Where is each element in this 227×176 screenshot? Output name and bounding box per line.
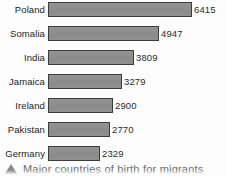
- category-label: India: [0, 50, 45, 65]
- caption-text: Major countries of birth for migrants: [23, 163, 203, 176]
- value-label: 2900: [115, 98, 137, 113]
- value-label: 4947: [161, 26, 183, 41]
- bar: [48, 98, 113, 113]
- bar-container: [48, 74, 122, 89]
- category-label: Ireland: [0, 98, 45, 113]
- bar: [48, 122, 110, 137]
- figure-caption: Major countries of birth for migrants: [0, 163, 227, 176]
- value-label: 2329: [102, 146, 124, 161]
- bar-container: [48, 98, 113, 113]
- bar: [48, 50, 134, 65]
- table-row: Pakistan 2770: [0, 122, 227, 146]
- table-row: Jamaica 3279: [0, 74, 227, 98]
- bar: [48, 146, 100, 161]
- bar-container: [48, 122, 110, 137]
- value-label: 2770: [112, 122, 134, 137]
- bar-chart-screenshot: Poland 6415 Somalia 4947 India 3809 Jama…: [0, 0, 227, 176]
- value-label: 6415: [194, 2, 216, 17]
- bar-container: [48, 146, 100, 161]
- bar-container: [48, 26, 159, 41]
- category-label: Poland: [0, 2, 45, 17]
- bar: [48, 74, 122, 89]
- table-row: India 3809: [0, 50, 227, 74]
- value-label: 3809: [136, 50, 158, 65]
- table-row: Somalia 4947: [0, 26, 227, 50]
- triangle-marker-icon: [4, 164, 18, 175]
- table-row: Poland 6415: [0, 2, 227, 26]
- category-label: Germany: [0, 146, 45, 161]
- category-label: Pakistan: [0, 122, 45, 137]
- category-label: Jamaica: [0, 74, 45, 89]
- bar-container: [48, 2, 192, 17]
- category-label: Somalia: [0, 26, 45, 41]
- bar: [48, 2, 192, 17]
- bar: [48, 26, 159, 41]
- horizontal-bar-chart: Poland 6415 Somalia 4947 India 3809 Jama…: [0, 0, 227, 164]
- bar-container: [48, 50, 134, 65]
- value-label: 3279: [124, 74, 146, 89]
- table-row: Ireland 2900: [0, 98, 227, 122]
